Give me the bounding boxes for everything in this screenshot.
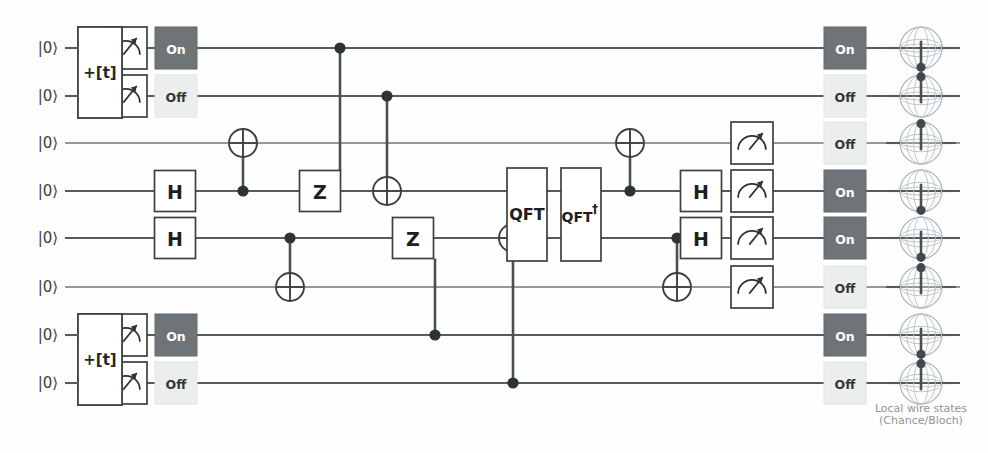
z-lower[interactable]: Z [393, 218, 434, 259]
indicator-label: On [166, 329, 186, 344]
indicator-left-indicators-wire-6[interactable]: On [155, 314, 197, 356]
bloch-sphere-wire-4[interactable] [886, 217, 956, 262]
indicator-right-indicators-wire-4[interactable]: On [824, 217, 866, 259]
z-upper[interactable]: Z [300, 171, 341, 212]
qft-dagger-gate-label: QFT [561, 209, 592, 225]
gate-layer: HHZZQFTQFT†HH [105, 27, 773, 404]
control-dot[interactable] [284, 232, 295, 243]
ket-label-3: |0⟩ [38, 182, 58, 200]
bloch-state-dot [916, 359, 925, 368]
ket-label-2: |0⟩ [38, 134, 58, 152]
top-source[interactable]: +[t] [65, 27, 122, 118]
ket-label-5: |0⟩ [38, 278, 58, 296]
bloch-sphere-wire-0[interactable] [886, 27, 956, 72]
ket-label-6: |0⟩ [38, 326, 58, 344]
h-w3[interactable]: H [155, 171, 196, 212]
m-r-2[interactable] [731, 122, 773, 164]
bloch-state-dot [916, 63, 925, 72]
z-gate-label: Z [313, 181, 327, 203]
indicator-label: On [835, 42, 855, 57]
h-w4[interactable]: H [155, 218, 196, 259]
qft-gate-label: QFT [509, 205, 545, 224]
h-gate-label: H [167, 181, 183, 203]
ket-label-0: |0⟩ [38, 39, 58, 57]
bloch-layer [886, 27, 956, 404]
cx-5[interactable] [616, 129, 644, 197]
bloch-state-dot [916, 206, 925, 215]
ket-label-7: |0⟩ [38, 374, 58, 392]
dagger-symbol: † [592, 202, 598, 216]
indicator-left-indicators-wire-7[interactable]: Off [155, 362, 197, 404]
indicator-right-indicators-wire-5[interactable]: Off [824, 266, 866, 308]
bloch-state-dot [916, 263, 925, 272]
indicator-label: Off [166, 377, 188, 392]
indicator-label: On [835, 185, 855, 200]
measure-box [731, 122, 773, 164]
cx-1[interactable] [229, 129, 257, 197]
circuit-canvas: |0⟩|0⟩|0⟩|0⟩|0⟩|0⟩|0⟩|0⟩ HHZZQFTQFT†HH +… [0, 0, 988, 453]
indicator-right-indicators-wire-7[interactable]: Off [824, 362, 866, 404]
caption-layer: Local wire states(Chance/Bloch) [875, 402, 967, 427]
control-dot[interactable] [334, 42, 345, 53]
caption-line-2: (Chance/Bloch) [879, 414, 963, 427]
indicator-right-indicators-wire-0[interactable]: On [824, 27, 866, 69]
cnot-layer [229, 90, 691, 388]
bloch-state-dot [916, 350, 925, 359]
control-dot[interactable] [507, 377, 518, 388]
bloch-sphere-wire-3[interactable] [886, 170, 956, 215]
bloch-sphere-wire-5[interactable] [886, 263, 956, 308]
control-dot[interactable] [624, 185, 635, 196]
indicator-right-indicators-wire-6[interactable]: On [824, 314, 866, 356]
indicator-label: On [166, 42, 186, 57]
h-w4-r[interactable]: H [681, 218, 722, 259]
h-gate-label: H [693, 181, 709, 203]
h-w3-r[interactable]: H [681, 171, 722, 212]
z-gate-label: Z [406, 228, 420, 250]
cx-2[interactable] [276, 232, 304, 301]
bloch-sphere-wire-1[interactable] [886, 72, 956, 117]
indicator-label: Off [835, 90, 857, 105]
indicator-right-indicators-wire-3[interactable]: On [824, 170, 866, 212]
ket-label-4: |0⟩ [38, 229, 58, 247]
control-dot[interactable] [237, 185, 248, 196]
m-r-5[interactable] [731, 266, 773, 308]
ctrl-z-lower [429, 259, 440, 341]
bloch-sphere-wire-7[interactable] [886, 359, 956, 404]
h-gate-label: H [693, 228, 709, 250]
indicator-label: Off [835, 137, 857, 152]
measure-box [731, 170, 773, 212]
indicator-label: Off [835, 281, 857, 296]
indicator-label: Off [166, 90, 188, 105]
indicator-right-indicators-wire-2[interactable]: Off [824, 122, 866, 164]
indicator-label: On [835, 329, 855, 344]
qft-dag[interactable]: QFT† [561, 168, 601, 261]
source-block-layer: +[t]+[t] [65, 27, 122, 405]
bloch-sphere-wire-2[interactable] [886, 119, 956, 164]
qft[interactable]: QFT [507, 168, 547, 261]
h-gate-label: H [167, 228, 183, 250]
cx-3[interactable] [373, 90, 401, 205]
ket-label-1: |0⟩ [38, 87, 58, 105]
indicator-left-indicators-wire-0[interactable]: On [155, 27, 197, 69]
control-dot[interactable] [381, 90, 392, 101]
bloch-state-dot [916, 253, 925, 262]
indicator-label: Off [835, 377, 857, 392]
measure-box [731, 266, 773, 308]
quantum-circuit-diagram: |0⟩|0⟩|0⟩|0⟩|0⟩|0⟩|0⟩|0⟩ HHZZQFTQFT†HH +… [0, 0, 988, 453]
source-label: +[t] [83, 351, 116, 369]
m-r-4[interactable] [731, 217, 773, 259]
measure-box [731, 217, 773, 259]
bloch-state-dot [916, 72, 925, 81]
bottom-source[interactable]: +[t] [65, 314, 122, 405]
m-r-3[interactable] [731, 170, 773, 212]
source-label: +[t] [83, 64, 116, 82]
indicator-left-indicators-wire-1[interactable]: Off [155, 75, 197, 117]
control-dot[interactable] [429, 329, 440, 340]
indicator-right-indicators-wire-1[interactable]: Off [824, 75, 866, 117]
ctrl-z-upper [334, 42, 345, 170]
bloch-state-dot [916, 119, 925, 128]
bloch-sphere-wire-6[interactable] [886, 314, 956, 359]
ket-label-layer: |0⟩|0⟩|0⟩|0⟩|0⟩|0⟩|0⟩|0⟩ [38, 39, 58, 392]
indicator-label: On [835, 232, 855, 247]
